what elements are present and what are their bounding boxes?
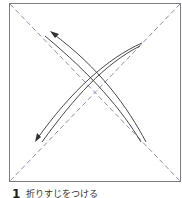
step-number: 1 (12, 188, 20, 198)
step-caption: 1 折りすじをつける (12, 188, 98, 198)
origami-diagram (0, 0, 182, 198)
step-instruction: 折りすじをつける (26, 188, 98, 198)
